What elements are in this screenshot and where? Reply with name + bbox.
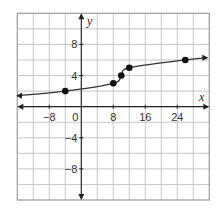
data-point xyxy=(110,80,117,87)
data-point xyxy=(126,64,133,71)
svg-text:8: 8 xyxy=(71,38,77,50)
svg-text:−8: −8 xyxy=(43,111,56,123)
svg-text:0: 0 xyxy=(72,111,78,123)
x-axis-label: x xyxy=(198,90,205,104)
data-point xyxy=(62,88,69,95)
y-axis-label: y xyxy=(86,14,93,28)
svg-text:−8: −8 xyxy=(65,163,78,175)
svg-text:−4: −4 xyxy=(65,132,78,144)
svg-text:8: 8 xyxy=(110,111,116,123)
svg-text:16: 16 xyxy=(139,111,151,123)
function-curve xyxy=(17,58,207,96)
data-point xyxy=(118,72,125,79)
graph: −808162484−4−8 x y xyxy=(0,0,222,211)
svg-text:4: 4 xyxy=(71,70,77,82)
data-point xyxy=(182,57,189,64)
svg-text:24: 24 xyxy=(171,111,183,123)
